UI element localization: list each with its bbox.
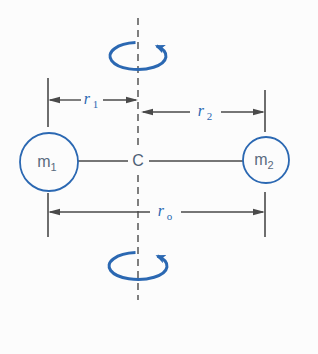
r1-arrowhead-left bbox=[48, 97, 60, 103]
r2-dimension-label: r2 bbox=[198, 103, 213, 119]
mass-2-label: m2 bbox=[254, 152, 273, 168]
r0-label-subscript: o bbox=[164, 210, 173, 222]
mass-1-label-subscript: 1 bbox=[51, 161, 57, 173]
mass-1-label: m1 bbox=[37, 154, 56, 170]
mass-2-label-subscript: 2 bbox=[268, 159, 274, 171]
r0-dimension-label: ro bbox=[158, 203, 173, 219]
r2-arrowhead-right bbox=[253, 109, 265, 115]
r1-dimension-label: r1 bbox=[84, 91, 99, 107]
mass-1-label-base: m bbox=[37, 153, 50, 170]
r0-arrowhead-right bbox=[253, 209, 265, 215]
mass-2-label-base: m bbox=[254, 151, 267, 168]
physics-diagram: m1 m2 C r1 r2 ro bbox=[0, 0, 318, 354]
diagram-canvas bbox=[0, 0, 318, 354]
r1-label-subscript: 1 bbox=[90, 98, 99, 110]
r2-label-subscript: 2 bbox=[204, 110, 213, 122]
center-of-mass-label: C bbox=[132, 153, 144, 169]
r1-arrowhead-right bbox=[126, 97, 138, 103]
